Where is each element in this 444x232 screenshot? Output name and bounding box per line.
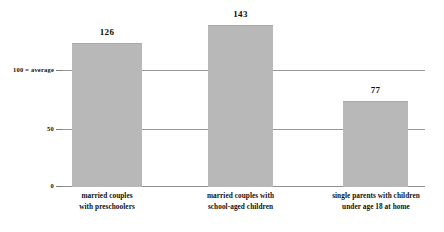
bar-chart: 100 = average 50 0 126 married couples w… xyxy=(0,0,444,232)
plot-area: 100 = average 50 0 126 married couples w… xyxy=(0,0,444,232)
bar-married-couples-school-aged[interactable] xyxy=(208,25,273,187)
category-label-1-line2: with preschoolers xyxy=(52,202,162,213)
bar-value-1: 126 xyxy=(72,27,142,37)
y-tick-dash-50 xyxy=(56,129,62,130)
bar-value-2: 143 xyxy=(208,9,273,19)
category-label-2-line1: married couples with xyxy=(207,191,274,200)
y-tick-dash-100 xyxy=(56,70,62,71)
y-tick-dash-0 xyxy=(56,186,62,187)
bar-married-couples-preschoolers[interactable] xyxy=(72,43,142,187)
category-label-1-line1: married couples xyxy=(81,191,132,200)
category-label-3-line2: under age 18 at home xyxy=(311,202,441,213)
category-label-3: single parents with children under age 1… xyxy=(311,191,441,212)
category-label-1: married couples with preschoolers xyxy=(52,191,162,212)
category-label-2: married couples with school-aged childre… xyxy=(183,191,298,212)
y-tick-label-50: 50 xyxy=(8,125,54,132)
bar-single-parents-children[interactable] xyxy=(343,101,408,187)
category-label-2-line2: school-aged children xyxy=(183,202,298,213)
y-tick-label-0: 0 xyxy=(8,182,54,189)
bar-value-3: 77 xyxy=(343,85,408,95)
y-tick-label-100: 100 = average xyxy=(8,66,54,73)
category-label-3-line1: single parents with children xyxy=(332,191,420,200)
